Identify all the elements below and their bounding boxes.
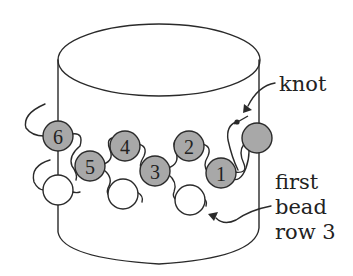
white-bead — [108, 179, 138, 209]
first-bead-arrowhead — [208, 212, 218, 221]
knot-arrowhead — [243, 104, 252, 113]
cylinder-top — [58, 24, 260, 96]
bead-3-label: 3 — [150, 161, 160, 183]
bead-4-label: 4 — [120, 136, 130, 158]
knot-label: knot — [279, 72, 327, 96]
knot-leader-line — [248, 83, 275, 106]
beading-diagram: 6 5 4 3 2 1 knot first bead row 3 — [0, 0, 353, 276]
gray-bead-start — [242, 123, 272, 153]
bead-1-label: 1 — [216, 163, 226, 185]
knot-dot — [234, 119, 239, 124]
white-bead — [43, 175, 73, 205]
white-bead — [175, 185, 205, 215]
first-bead-label-line1: first — [275, 170, 319, 194]
first-bead-label-line3: row 3 — [275, 220, 336, 244]
bead-5-label: 5 — [85, 156, 95, 178]
bead-2-label: 2 — [184, 136, 194, 158]
bead-6-label: 6 — [53, 126, 63, 148]
first-bead-leader-line — [216, 206, 271, 223]
first-bead-label-line2: bead — [275, 195, 327, 219]
